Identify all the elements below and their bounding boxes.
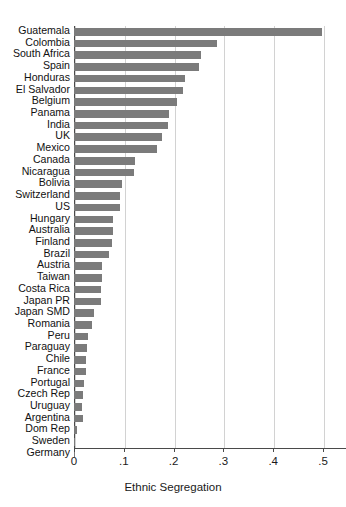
bar	[74, 333, 88, 341]
category-label: France	[37, 365, 70, 377]
x-axis-line	[74, 448, 346, 449]
bar	[74, 356, 86, 364]
x-tick	[323, 448, 324, 452]
bar	[74, 169, 134, 177]
bar	[74, 180, 122, 188]
bar	[74, 321, 92, 329]
x-axis-title: Ethnic Segregation	[0, 481, 346, 493]
bar	[74, 40, 217, 48]
ethnic-segregation-bar-chart: GuatemalaColombiaSouth AfricaSpainHondur…	[0, 0, 346, 507]
bar	[74, 415, 83, 423]
bar	[74, 227, 113, 235]
bar	[74, 368, 86, 376]
bar	[74, 87, 183, 95]
bar	[74, 204, 120, 212]
category-label: Canada	[33, 154, 70, 166]
x-tick-label: 0	[71, 455, 77, 467]
category-label: Honduras	[24, 72, 70, 84]
category-label: US	[55, 201, 70, 213]
bar	[74, 63, 199, 71]
bar	[74, 251, 109, 259]
x-tick-label: .1	[119, 455, 129, 467]
bar	[74, 110, 169, 118]
x-tick-label: .4	[268, 455, 278, 467]
bar	[74, 28, 322, 36]
bar	[74, 133, 162, 141]
category-label: Costa Rica	[18, 283, 70, 295]
bar	[74, 122, 168, 130]
bar	[74, 426, 77, 434]
x-tick	[273, 448, 274, 452]
bar	[74, 380, 84, 388]
x-tick	[124, 448, 125, 452]
bar	[74, 274, 102, 282]
bar	[74, 286, 101, 294]
bar	[74, 239, 112, 247]
bar	[74, 391, 83, 399]
x-tick-label: .3	[219, 455, 229, 467]
bar	[74, 298, 101, 306]
category-label: Romania	[28, 318, 70, 330]
x-tick	[174, 448, 175, 452]
bar-row: Switzerland	[0, 190, 346, 202]
bar	[74, 344, 87, 352]
bar	[74, 51, 201, 59]
bar	[74, 262, 102, 270]
category-label: Finland	[35, 236, 70, 248]
x-tick	[223, 448, 224, 452]
bar	[74, 403, 82, 411]
category-label: Germany	[26, 447, 70, 459]
x-tick	[74, 448, 75, 452]
bar-rows: GuatemalaColombiaSouth AfricaSpainHondur…	[0, 26, 346, 448]
x-tick-label: .2	[169, 455, 179, 467]
bar	[74, 216, 113, 224]
bar	[74, 145, 157, 153]
bar	[74, 157, 135, 165]
x-tick-label: .5	[318, 455, 328, 467]
bar-row: India	[0, 120, 346, 132]
bar	[74, 309, 94, 317]
bar	[74, 98, 177, 106]
bar	[74, 192, 120, 200]
bar	[74, 75, 185, 83]
